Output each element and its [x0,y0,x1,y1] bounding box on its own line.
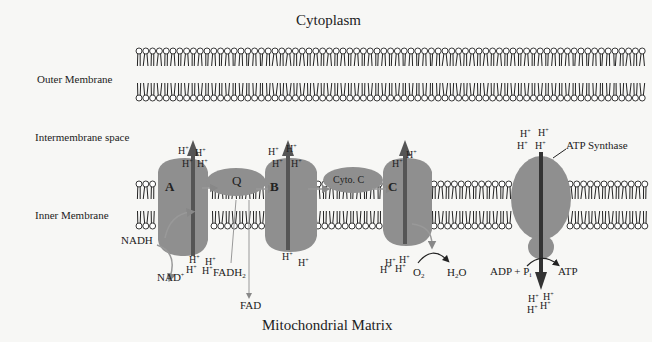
proton-label: H+ [178,145,189,156]
protein-complexes [158,156,571,259]
complex-b-label: B [270,180,279,193]
atp-synthase-label: ATP Synthase [566,140,628,151]
proton-label: H+ [395,263,406,274]
proton-label: H+ [538,127,549,138]
o2-h2o-arc [418,253,447,263]
proton-label: H+ [527,304,538,315]
fad-label: FAD [240,300,261,311]
proton-label: H+ [520,128,531,139]
proton-label: H+ [286,143,297,154]
intermembrane-space-label: Intermembrane space [35,132,129,143]
outer-membrane-label: Outer Membrane [37,74,112,85]
nad-plus-label: NAD+ [157,272,184,283]
complex-a-label: A [165,180,174,193]
adp-pi-label: ADP + Pi [490,266,531,279]
proton-label: H+ [186,264,197,275]
proton-label: H+ [182,158,193,169]
proton-label: H+ [298,257,309,268]
proton-label: H+ [197,158,208,169]
h2o-label: H2O [447,267,466,280]
complex-c-label: C [388,180,397,193]
proton-label: H+ [291,158,302,169]
o2-label: O2 [413,267,424,280]
cyto-c-label: Cyto. C [333,175,364,185]
etc-diagram [0,0,652,342]
proton-label: H+ [517,140,528,151]
complex-c-shape [383,158,432,246]
fadh2-line [231,200,236,263]
proton-label: H+ [406,149,417,160]
fadh2-label: FADH2 [213,267,246,280]
proton-label: H+ [392,158,403,169]
complex-b-shape [265,158,317,252]
outer-membrane [136,48,645,101]
nadh-label: NADH [121,235,153,246]
proton-label: H+ [202,265,213,276]
proton-label: H+ [535,140,546,151]
atp-synthase-leader [553,149,566,158]
proton-label: H+ [268,146,279,157]
proton-label: H+ [528,293,539,304]
matrix-label: Mitochondrial Matrix [262,318,392,333]
proton-label: H+ [380,264,391,275]
proton-label: H+ [195,147,206,158]
complex-a-shape [158,158,208,256]
proton-label: H+ [540,300,551,311]
proton-label: H+ [272,158,283,169]
atp-label: ATP [558,266,578,277]
proton-label: H+ [282,251,293,262]
cytoplasm-label: Cytoplasm [296,13,361,28]
inner-membrane-label: Inner Membrane [35,210,109,221]
complex-q-label: Q [232,174,241,187]
